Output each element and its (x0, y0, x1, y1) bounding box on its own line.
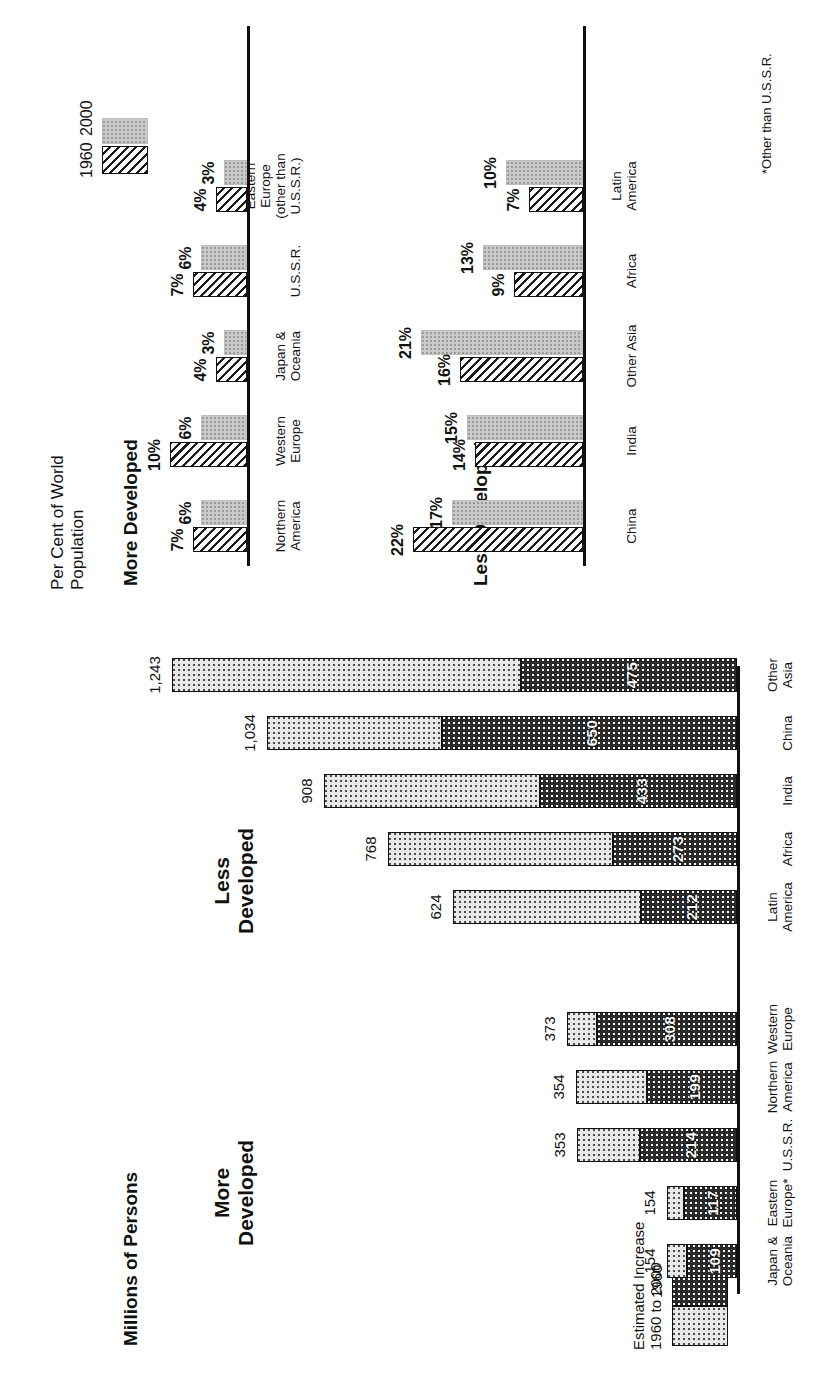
bar-value-label-1960: 16% (436, 345, 454, 395)
bar-2000 (224, 330, 247, 355)
bar-value-label-1960: 214 (682, 1128, 699, 1162)
bar-value-label-1960: 212 (683, 890, 700, 924)
bar-group: 14%15%India (467, 415, 583, 467)
millions-of-persons-chart: Millions of Persons MoreDeveloped LessDe… (0, 626, 836, 1386)
right-chart-baseline-more (247, 26, 250, 566)
bar-1960 (475, 442, 583, 467)
stacked-bar: 308373WesternEurope (567, 1012, 737, 1046)
bar-1960 (529, 187, 583, 212)
bar-value-label-2000: 6% (177, 403, 195, 453)
legend-swatch-estimated-increase (672, 1306, 728, 1346)
left-chart-group-less-developed: LessDeveloped (210, 828, 258, 934)
bar-value-label-1960: 109 (706, 1244, 723, 1278)
bar-category-label: Japan &Oceania (273, 311, 303, 401)
bar-value-label-2000: 10% (482, 148, 500, 198)
bar-category-label: OtherAsia (765, 636, 795, 714)
right-chart-group-more-developed: More Developed (120, 439, 142, 586)
bar-segment-increase (172, 658, 521, 692)
legend-label-1960: 1960 (78, 142, 96, 178)
bar-value-label-1960: 475 (623, 658, 640, 692)
per-cent-chart: Per Cent of WorldPopulation More Develop… (0, 0, 836, 626)
stacked-bar: 214353U.S.S.R. (577, 1128, 737, 1162)
legend-label-2000: 2000 (78, 100, 96, 136)
bar-1960 (216, 357, 247, 382)
bar-2000 (201, 500, 247, 525)
bar-total-label: 373 (541, 998, 558, 1060)
stacked-bar: 117154EasternEurope* (667, 1186, 737, 1220)
right-chart-axis-title: Per Cent of WorldPopulation (48, 455, 87, 590)
figure-canvas: Millions of Persons MoreDeveloped LessDe… (0, 0, 836, 1386)
bar-category-label: U.S.S.R. (288, 226, 303, 316)
bar-value-label-1960: 273 (669, 832, 686, 866)
stacked-bar: 4751,243OtherAsia (172, 658, 737, 692)
stacked-bar: 6501,034China (267, 716, 737, 750)
bar-value-label-1960: 117 (704, 1186, 721, 1220)
bar-1960 (514, 272, 583, 297)
bar-value-label-2000: 3% (200, 318, 218, 368)
legend-swatch-1960 (102, 146, 148, 174)
bar-value-label-1960: 650 (583, 716, 600, 750)
bar-total-label: 354 (550, 1056, 567, 1118)
bar-value-label-1960: 9% (490, 260, 508, 310)
right-chart-baseline (583, 26, 586, 566)
stacked-bar: 212624LatinAmerica (453, 890, 737, 924)
bar-2000 (467, 415, 583, 440)
bar-category-label: Africa (624, 226, 639, 316)
bar-total-label: 768 (362, 818, 379, 880)
bar-segment-increase (667, 1186, 684, 1220)
bar-1960 (193, 527, 247, 552)
bar-group: 4%3%Eastern Europe(other than U.S.S.R.) (216, 160, 247, 212)
bar-group: 9%13%Africa (483, 245, 583, 297)
bar-segment-increase (576, 1070, 646, 1104)
stacked-bar: 433908India (324, 774, 737, 808)
bar-value-label-1960: 199 (686, 1070, 703, 1104)
bar-value-label-1960: 7% (505, 175, 523, 225)
legend-swatch-2000 (102, 118, 148, 144)
bar-value-label-1960: 22% (389, 515, 407, 565)
bar-group: 7%10%LatinAmerica (506, 160, 583, 212)
bar-total-label: 908 (298, 760, 315, 822)
bar-segment-increase (453, 890, 640, 924)
bar-group: 7%6%NorthernAmerica (193, 500, 247, 552)
bar-value-label-1960: 10% (146, 430, 164, 480)
bar-category-label: LatinAmerica (609, 141, 639, 231)
bar-value-label-2000: 17% (428, 488, 446, 538)
bar-segment-increase (324, 774, 540, 808)
bar-group: 16%21%Other Asia (421, 330, 583, 382)
bar-1960 (193, 272, 247, 297)
bar-group: 22%17%China (413, 500, 583, 552)
bar-segment-increase (567, 1012, 597, 1046)
bar-segment-increase (267, 716, 442, 750)
bar-value-label-2000: 21% (397, 318, 415, 368)
bar-category-label: India (624, 396, 639, 486)
bar-value-label-1960: 308 (661, 1012, 678, 1046)
stacked-bar: 199354NorthernAmerica (576, 1070, 737, 1104)
bar-total-label: 154 (641, 1230, 658, 1292)
bar-segment-increase (667, 1244, 687, 1278)
bar-total-label: 1,034 (241, 702, 258, 764)
right-chart-footnote: *Other than U.S.S.R. (760, 53, 775, 174)
bar-category-label: NorthernAmerica (273, 481, 303, 571)
bar-category-label: Eastern Europe(other than U.S.S.R.) (243, 141, 303, 231)
left-chart-axis-title: Millions of Persons (120, 1172, 142, 1346)
bar-category-label: Other Asia (624, 311, 639, 401)
bar-value-label-1960: 433 (633, 774, 650, 808)
bar-total-label: 154 (641, 1172, 658, 1234)
bar-category-label: WesternEurope (765, 990, 795, 1068)
stacked-bar: 109154Japan &Oceania (667, 1244, 737, 1278)
bar-group: 10%6%WesternEurope (170, 415, 247, 467)
stacked-bar: 273768Africa (388, 832, 737, 866)
bar-value-label-2000: 6% (177, 233, 195, 283)
bar-group: 7%6%U.S.S.R. (193, 245, 247, 297)
bar-value-label-2000: 15% (443, 403, 461, 453)
left-chart-group-more-developed: MoreDeveloped (210, 1140, 258, 1246)
bar-value-label-2000: 6% (177, 488, 195, 538)
bar-value-label-2000: 3% (200, 148, 218, 198)
bar-category-label: WesternEurope (273, 396, 303, 486)
bar-value-label-2000: 13% (459, 233, 477, 283)
bar-2000 (201, 415, 247, 440)
bar-segment-increase (577, 1128, 640, 1162)
bar-1960 (460, 357, 583, 382)
bar-segment-increase (388, 832, 613, 866)
bar-2000 (452, 500, 583, 525)
